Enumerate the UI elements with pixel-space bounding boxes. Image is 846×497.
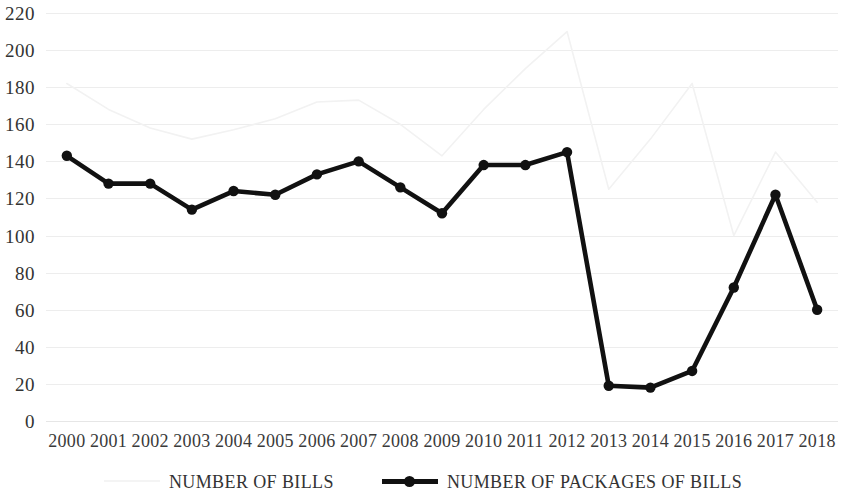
x-axis-tick-label: 2003 — [173, 430, 210, 452]
data-point — [645, 382, 655, 392]
gridline — [46, 421, 838, 422]
data-point — [228, 186, 238, 196]
x-axis-tick-label: 2014 — [632, 430, 669, 452]
data-point — [604, 381, 614, 391]
x-axis-tick-label: 2008 — [382, 430, 419, 452]
legend-label-bills: NUMBER OF BILLS — [169, 472, 334, 492]
x-axis-tick-label: 2011 — [507, 430, 544, 452]
x-axis-tick-label: 2002 — [132, 430, 169, 452]
y-axis-tick-label: 0 — [25, 412, 35, 431]
y-axis: 020406080100120140160180200220 — [0, 0, 46, 434]
data-point — [520, 160, 530, 170]
y-axis-tick-label: 100 — [5, 226, 35, 245]
x-axis-tick-label: 2004 — [215, 430, 252, 452]
y-axis-tick-label: 220 — [5, 4, 35, 23]
data-point — [312, 169, 322, 179]
x-axis-tick-label: 2007 — [340, 430, 377, 452]
x-axis-tick-label: 2000 — [48, 430, 85, 452]
data-point — [62, 151, 72, 161]
x-axis-tick-label: 2010 — [465, 430, 502, 452]
x-axis-tick-label: 2017 — [757, 430, 794, 452]
legend-line-marker-icon-packages — [382, 474, 438, 490]
y-axis-tick-label: 160 — [5, 115, 35, 134]
data-point — [103, 178, 113, 188]
y-axis-tick-label: 80 — [15, 263, 35, 282]
x-axis-tick-label: 2015 — [673, 430, 710, 452]
y-axis-tick-label: 20 — [15, 374, 35, 393]
series-line-packages — [67, 152, 817, 388]
series-layer — [46, 13, 838, 421]
legend-item-number-of-packages-of-bills[interactable]: NUMBER OF PACKAGES OF BILLS — [382, 472, 742, 492]
data-point — [687, 366, 697, 376]
data-point — [187, 204, 197, 214]
x-axis-tick-label: 2016 — [715, 430, 752, 452]
data-point — [812, 305, 822, 315]
data-point — [437, 208, 447, 218]
data-point — [729, 282, 739, 292]
x-axis-tick-label: 2018 — [799, 430, 836, 452]
y-axis-tick-label: 140 — [5, 152, 35, 171]
x-axis-tick-label: 2009 — [423, 430, 460, 452]
y-axis-tick-label: 180 — [5, 78, 35, 97]
data-point — [270, 190, 280, 200]
legend-label-packages: NUMBER OF PACKAGES OF BILLS — [447, 472, 742, 492]
x-axis: 2000200120022003200420052006200720082009… — [46, 430, 838, 460]
series-line-bills — [67, 32, 817, 236]
y-axis-tick-label: 200 — [5, 41, 35, 60]
x-axis-tick-label: 2005 — [257, 430, 294, 452]
data-point — [353, 156, 363, 166]
y-axis-tick-label: 60 — [15, 300, 35, 319]
line-chart: 020406080100120140160180200220 200020012… — [0, 0, 846, 497]
x-axis-tick-label: 2012 — [548, 430, 585, 452]
x-axis-tick-label: 2001 — [90, 430, 127, 452]
x-axis-tick-label: 2006 — [298, 430, 335, 452]
data-point — [478, 160, 488, 170]
x-axis-tick-label: 2013 — [590, 430, 627, 452]
legend-line-icon-bills — [104, 474, 160, 490]
data-point — [145, 178, 155, 188]
legend-item-number-of-bills[interactable]: NUMBER OF BILLS — [104, 472, 334, 492]
y-axis-tick-label: 40 — [15, 337, 35, 356]
y-axis-tick-label: 120 — [5, 189, 35, 208]
data-point — [562, 147, 572, 157]
plot-area — [46, 13, 838, 421]
data-point — [395, 182, 405, 192]
chart-legend: NUMBER OF BILLS NUMBER OF PACKAGES OF BI… — [0, 466, 846, 497]
data-point — [770, 190, 780, 200]
